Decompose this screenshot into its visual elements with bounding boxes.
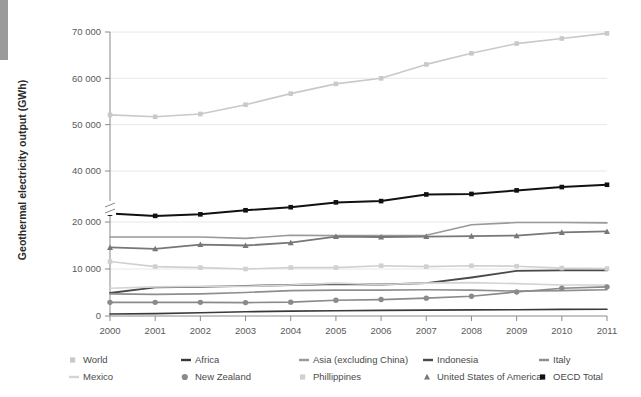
data-point-marker [243,208,248,213]
legend-label: Indonesia [437,354,479,365]
data-point-marker [153,264,158,269]
legend-marker-line-icon [69,376,79,378]
x-tick-label: 2005 [325,325,346,336]
data-point-marker [108,259,113,264]
y-tick-label: 20 000 [72,216,101,227]
data-point-marker [334,82,339,87]
y-tick-label: 50 000 [72,119,101,130]
x-tick-label: 2010 [551,325,572,336]
y-tick-label: 60 000 [72,73,101,84]
legend-marker-square-icon [300,374,305,379]
gridlines-group [110,32,607,269]
y-axis-title: Geothermal electricity output (GWh) [16,80,28,260]
data-point-marker [605,182,610,187]
data-point-marker [198,265,203,270]
data-point-marker [514,41,519,46]
data-point-marker [379,263,384,268]
data-point-marker [560,185,565,190]
data-point-marker [469,294,474,299]
y-tick-label: 40 000 [72,165,101,176]
legend-item-new-zealand[interactable]: New Zealand [182,371,251,382]
chart-page: 010 00020 00040 00050 00060 00070 000 20… [0,0,641,397]
legend-marker-triangle-icon [424,374,430,380]
series-phillippines [108,259,610,271]
geothermal-output-line-chart: 010 00020 00040 00050 00060 00070 000 20… [0,0,641,397]
data-point-marker [514,188,519,193]
legend-label: New Zealand [195,371,251,382]
data-point-marker [108,113,113,118]
series-africa [110,309,607,314]
data-point-marker [243,267,248,272]
data-point-marker [243,300,248,305]
data-point-marker [334,200,339,205]
data-point-marker [469,263,474,268]
legend-marker-line-icon [181,359,191,361]
legend-label: World [83,354,108,365]
data-point-marker [378,297,383,302]
data-point-marker [153,114,158,119]
legend-label: United States of America [437,371,542,382]
x-tick-label: 2011 [597,325,617,336]
data-point-marker [514,264,519,269]
legend-item-africa[interactable]: Africa [181,354,220,365]
y-axis-break-marker [104,201,116,215]
x-tick-label: 2004 [280,325,301,336]
x-tick-label: 2000 [99,325,120,336]
data-point-marker [288,91,293,96]
data-point-marker [559,286,564,291]
data-point-marker [198,212,203,217]
legend-marker-circle-icon [182,374,188,380]
data-point-marker [333,298,338,303]
legend-marker-line-icon [423,359,433,361]
x-tick-label: 2006 [371,325,392,336]
data-point-marker [514,289,519,294]
x-tick-label: 2002 [190,325,211,336]
data-point-marker [288,205,293,210]
legend-item-world[interactable]: World [70,354,108,365]
data-point-marker [424,62,429,67]
y-tick-label: 0 [96,310,101,321]
data-point-marker [469,192,474,197]
data-point-marker [198,300,203,305]
data-point-marker [288,265,293,270]
data-point-marker [198,112,203,117]
legend-label: OECD Total [553,371,603,382]
data-point-marker [107,300,112,305]
legend-item-italy[interactable]: Italy [539,354,571,365]
legend-marker-line-icon [539,359,549,361]
data-point-marker [560,266,565,271]
data-point-marker [605,31,610,36]
series-united-states-of-america [107,228,610,251]
legend-item-phillippines[interactable]: Phillippines [300,371,361,382]
legend-item-united-states-of-america[interactable]: United States of America [424,371,542,382]
series-oecd-total [108,182,610,218]
legend-item-asia-excluding-china[interactable]: Asia (excluding China) [299,354,408,365]
legend-marker-square-icon [540,374,545,379]
axes-group [105,32,607,321]
data-point-marker [243,102,248,107]
x-tick-label: 2007 [416,325,437,336]
legend-label: Asia (excluding China) [313,354,408,365]
chart-legend: WorldAfricaAsia (excluding China)Indones… [69,354,603,382]
legend-item-indonesia[interactable]: Indonesia [423,354,479,365]
legend-item-mexico[interactable]: Mexico [69,371,113,382]
data-point-marker [334,265,339,270]
x-tick-label: 2001 [145,325,166,336]
x-tick-label: 2003 [235,325,256,336]
series-world [108,31,610,119]
data-point-marker [153,214,158,219]
x-axis-tick-labels: 2000200120022003200420052006200720082009… [99,325,617,336]
legend-label: Africa [195,354,220,365]
legend-marker-square-icon [70,357,75,362]
legend-label: Mexico [83,371,113,382]
legend-item-oecd-total[interactable]: OECD Total [540,371,603,382]
data-point-marker [605,266,610,271]
data-point-marker [379,76,384,81]
data-point-marker [424,264,429,269]
data-point-marker [604,284,609,289]
data-point-marker [469,51,474,56]
data-point-marker [560,36,565,41]
data-point-marker [152,300,157,305]
data-point-marker [424,295,429,300]
series-lines-group [107,31,610,314]
